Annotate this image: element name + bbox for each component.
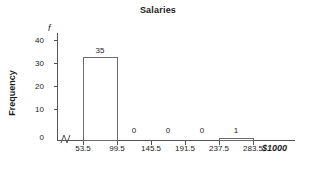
histogram-bar xyxy=(220,139,254,141)
plot-area xyxy=(0,0,316,171)
chart-figure: Salaries Frequency f $1000 40 30 20 10 0… xyxy=(0,0,316,171)
histogram-bar xyxy=(84,58,118,141)
axis-break-icon xyxy=(61,135,70,143)
